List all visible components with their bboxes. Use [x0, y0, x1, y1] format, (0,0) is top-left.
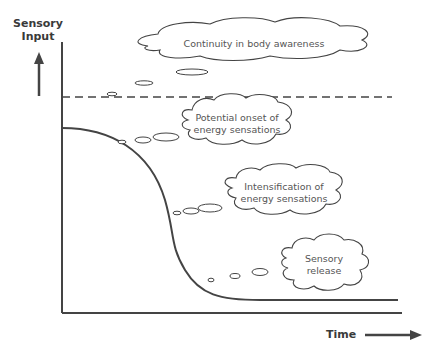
thought-bubble [153, 133, 179, 141]
thought-bubble [118, 140, 126, 144]
thought-bubble [198, 204, 222, 212]
up-arrow-icon [34, 52, 44, 96]
right-arrow-icon [365, 330, 422, 340]
cloud-onset: Potential onset of energy sensations [182, 94, 291, 145]
y-axis-label-line1: Sensory [13, 17, 63, 30]
cloud-continuity-text: Continuity in body awareness [184, 38, 325, 49]
cloud-intensification-text-line1: Intensification of [244, 181, 324, 192]
y-axis-label-line2: Input [22, 30, 55, 43]
thought-bubble [135, 81, 153, 85]
cloud-release-text-line1: Sensory [305, 253, 344, 264]
cloud-onset-text-line2: energy sensations [194, 124, 281, 135]
x-axis-label: Time [326, 328, 356, 341]
cloud-release: Sensory release [282, 234, 369, 290]
thought-bubble [230, 274, 240, 279]
cloud-continuity: Continuity in body awareness [138, 18, 368, 61]
thought-bubble [252, 269, 268, 276]
cloud-intensification: Intensification of energy sensations [225, 164, 342, 215]
diagram-canvas: Sensory Input Continuity in body awarene… [0, 0, 436, 361]
thought-bubble [135, 137, 151, 143]
thought-bubble [173, 211, 181, 215]
thought-bubble [183, 208, 199, 214]
cloud-release-text-line2: release [307, 265, 342, 276]
cloud-intensification-text-line2: energy sensations [241, 193, 328, 204]
thought-bubble [107, 92, 117, 96]
thought-bubble [208, 278, 214, 282]
cloud-onset-text-line1: Potential onset of [195, 112, 279, 123]
thought-bubble [176, 69, 208, 75]
